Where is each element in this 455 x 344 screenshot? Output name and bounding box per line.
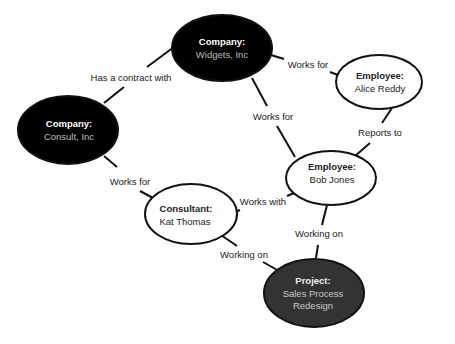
node-kat-thomas: Consultant: Kat Thomas xyxy=(145,184,237,244)
node-alice-value: Alice Reddy xyxy=(355,83,406,94)
edge-label-works-with: Works with xyxy=(240,196,286,207)
node-consult-title: Company: xyxy=(46,118,92,129)
edge-label-kat-working-on: Working on xyxy=(220,249,268,260)
node-project-value-line2: Redesign xyxy=(293,300,333,311)
edge-label-has-contract: Has a contract with xyxy=(91,72,172,83)
node-kat-value: Kat Thomas xyxy=(159,216,210,227)
relationship-diagram: Has a contract with Works for Works for … xyxy=(0,0,455,344)
edge-bob-working-on-project: Working on xyxy=(295,205,343,258)
node-project-title: Project: xyxy=(295,275,330,286)
node-widgets-title: Company: xyxy=(199,36,245,47)
edge-label-kat-works-for: Works for xyxy=(110,176,150,187)
edge-kat-working-on-project: Working on xyxy=(220,235,279,271)
node-consult-value: Consult, Inc xyxy=(44,131,94,142)
node-bob-value: Bob Jones xyxy=(310,174,355,185)
node-alice-reddy: Employee: Alice Reddy xyxy=(336,55,422,109)
node-bob-jones: Employee: Bob Jones xyxy=(286,151,376,205)
edge-label-alice-works-for: Works for xyxy=(288,59,328,70)
edge-label-bob-working-on: Working on xyxy=(295,228,343,239)
node-widgets-inc: Company: Widgets, Inc xyxy=(172,15,272,81)
node-project-sales-process-redesign: Project: Sales Process Redesign xyxy=(264,259,364,327)
node-alice-title: Employee: xyxy=(356,70,404,81)
edge-label-reports-to: Reports to xyxy=(358,127,402,138)
edge-bob-reports-to-alice: Reports to xyxy=(355,108,402,156)
edge-has-contract: Has a contract with xyxy=(91,44,178,103)
edge-alice-works-for-widgets: Works for xyxy=(271,55,338,75)
node-bob-title: Employee: xyxy=(308,161,356,172)
edge-label-bob-works-for: Works for xyxy=(253,111,293,122)
edge-bob-works-for-widgets: Works for xyxy=(252,78,295,157)
node-kat-title: Consultant: xyxy=(160,203,213,214)
edge-kat-works-for-consult: Works for xyxy=(104,156,153,198)
edge-kat-works-with-bob: Works with xyxy=(235,193,294,212)
node-project-value-line1: Sales Process xyxy=(283,288,344,299)
node-consult-inc: Company: Consult, Inc xyxy=(18,96,118,164)
node-widgets-value: Widgets, Inc xyxy=(196,49,249,60)
